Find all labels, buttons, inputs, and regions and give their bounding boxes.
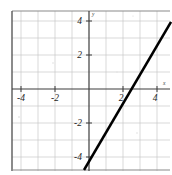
x-tick-label-pos4: 4: [153, 93, 158, 103]
x-tick-label-neg4: -4: [17, 93, 25, 103]
y-axis-label: y: [91, 11, 95, 17]
y-tick-label-pos4: 4: [77, 16, 82, 26]
y-tick-label-neg4: -4: [74, 152, 82, 162]
x-tick-label-neg2: -2: [51, 93, 59, 103]
x-axis-label: x: [162, 80, 166, 86]
coordinate-plane-figure: -4 -2 2 4 4 2 -2 -4 y x: [0, 0, 172, 175]
plot-background: [12, 11, 170, 171]
graph-canvas: -4 -2 2 4 4 2 -2 -4 y x: [0, 0, 172, 175]
y-tick-label-pos2: 2: [77, 50, 82, 60]
x-tick-label-pos2: 2: [119, 93, 124, 103]
y-tick-label-neg2: -2: [74, 118, 82, 128]
